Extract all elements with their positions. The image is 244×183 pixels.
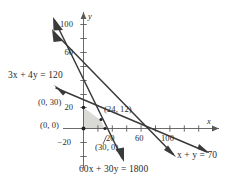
y-axis-label: y [88, 12, 92, 21]
axes [63, 12, 219, 168]
y-tick-label-60: 60 [65, 48, 74, 57]
equation-label-3x-4y-120: 3x + 4y = 120 [8, 71, 63, 81]
y-tick-label-minus-20: −20 [58, 138, 72, 147]
y-tick-label-20: 20 [65, 103, 74, 112]
dot-0-30 [82, 106, 86, 110]
line-arrowheads [52, 17, 210, 162]
line-3x-4y-120 [56, 88, 207, 152]
constraint-lines [54, 21, 207, 158]
x-tick-label-100: 100 [161, 134, 174, 143]
point-label-0-30: (0, 30) [38, 98, 61, 107]
x-axis-arrowhead [212, 126, 219, 132]
point-label-30-0: (30, 0) [95, 143, 118, 152]
arrowhead-3x4y-upper [54, 85, 66, 96]
x-axis-label: x [207, 117, 211, 126]
point-label-0-0: (0, 0) [40, 121, 59, 130]
dot-24-12 [99, 118, 102, 121]
x-tick-label-60: 60 [135, 134, 144, 143]
dot-origin [82, 127, 86, 131]
point-label-24-12: (24, 12) [104, 105, 132, 114]
y-axis-arrowhead [81, 12, 87, 19]
equation-label-x-y-70: x + y = 70 [177, 151, 217, 161]
arrowhead-xy70-upper [52, 29, 63, 42]
equation-label-60x-30y-1800: 60x + 30y = 1800 [79, 165, 148, 175]
y-tick-label-100: 100 [60, 20, 73, 29]
dot-30-0 [103, 127, 106, 130]
